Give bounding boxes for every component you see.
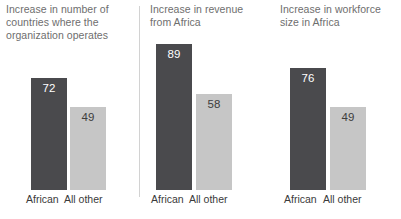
axis-label-african-revenue: African (151, 193, 184, 205)
chart-panel-revenue: Increase in revenue from Africa 89 58 Af… (140, 0, 270, 219)
axis-labels-countries: African All other (0, 193, 140, 213)
grouped-bar-chart-figure: Increase in number of countries where th… (0, 0, 401, 219)
bar-african-revenue: 89 (156, 44, 192, 190)
plot-area-revenue: 89 58 (140, 0, 270, 190)
axis-label-all-other-countries: All other (64, 193, 103, 205)
bar-all-other-countries: 49 (70, 107, 106, 190)
axis-labels-workforce: African All other (270, 193, 401, 213)
bar-all-other-revenue: 58 (196, 94, 232, 190)
axis-label-african-countries: African (26, 193, 59, 205)
chart-panel-countries: Increase in number of countries where th… (0, 0, 140, 219)
axis-label-all-other-revenue: All other (189, 193, 228, 205)
axis-label-african-workforce: African (284, 193, 317, 205)
bar-african-workforce: 76 (290, 68, 326, 190)
bar-all-other-workforce: 49 (330, 107, 366, 190)
plot-area-countries: 72 49 (0, 0, 140, 190)
bar-value-african-revenue: 89 (156, 48, 192, 60)
bar-value-african-workforce: 76 (290, 72, 326, 84)
chart-panel-workforce: Increase in workforce size in Africa 76 … (270, 0, 401, 219)
bar-value-all-other-workforce: 49 (330, 111, 366, 123)
bar-value-all-other-countries: 49 (70, 111, 106, 123)
bar-value-all-other-revenue: 58 (196, 98, 232, 110)
bar-value-african-countries: 72 (31, 82, 67, 94)
axis-label-all-other-workforce: All other (323, 193, 362, 205)
bar-african-countries: 72 (31, 78, 67, 190)
plot-area-workforce: 76 49 (270, 0, 401, 190)
axis-labels-revenue: African All other (140, 193, 270, 213)
